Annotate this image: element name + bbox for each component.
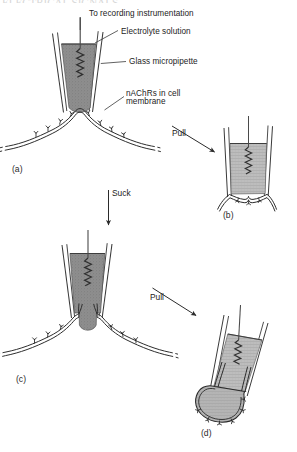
nachr-markers-a bbox=[34, 110, 126, 138]
action-label-pull-top: Pull bbox=[172, 128, 186, 138]
patch-clamp-figure: ELECTRICAL SIGNALS bbox=[0, 0, 297, 452]
panel-a-artwork bbox=[0, 17, 162, 152]
panel-label-b: (b) bbox=[223, 210, 234, 220]
callout-electrolyte-solution: Electrolyte solution bbox=[121, 27, 191, 36]
panel-label-d: (d) bbox=[201, 428, 212, 438]
panel-label-a: (a) bbox=[12, 164, 23, 174]
figure-artwork bbox=[0, 0, 297, 452]
panel-b-artwork bbox=[218, 116, 277, 211]
callout-nachrs-line-2: membrane bbox=[126, 97, 166, 106]
callout-recording-instrumentation: To recording instrumentation bbox=[89, 9, 194, 18]
action-label-suck: Suck bbox=[112, 188, 131, 198]
action-label-pull-bottom: Pull bbox=[150, 292, 164, 302]
callout-glass-micropipette: Glass micropipette bbox=[129, 57, 198, 66]
panel-d-artwork bbox=[195, 305, 268, 425]
panel-label-c: (c) bbox=[16, 374, 26, 384]
